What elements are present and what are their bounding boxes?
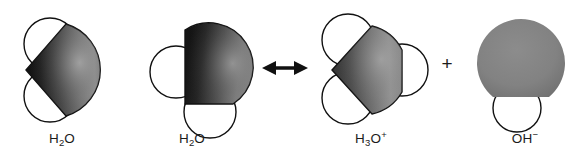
molecule-hydroxide	[477, 19, 565, 132]
plus-sign: +	[441, 54, 452, 73]
label-water-left: H2O	[49, 132, 75, 146]
oxygen-highlight	[185, 23, 253, 104]
molecule-diagram-canvas	[0, 0, 567, 160]
molecule-water-right	[150, 23, 253, 138]
label-water-right: H2O	[179, 132, 205, 146]
arrow-head-left	[262, 61, 276, 75]
label-hydronium: H3O+	[355, 132, 387, 146]
molecule-hydronium	[322, 14, 428, 124]
oxygen-body	[477, 19, 565, 97]
arrow-head-right	[294, 61, 308, 75]
resonance-arrow	[262, 61, 308, 75]
molecule-water-left	[24, 18, 100, 122]
label-hydroxide: OH−	[512, 132, 538, 146]
